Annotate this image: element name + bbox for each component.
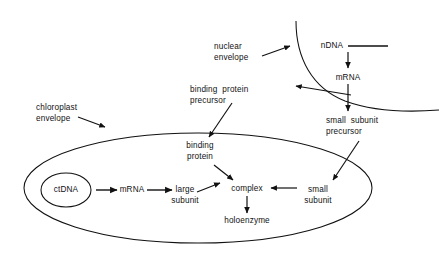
nuclear-envelope-label: nuclearenvelope (214, 42, 248, 63)
pathway-diagram: nuclearenvelope chloroplastenvelope nDNA… (0, 0, 439, 259)
arrow-binding-protein-precursor-to-binding-protein (209, 103, 232, 137)
node-large-subunit: largesubunit (171, 185, 198, 206)
arrow-chloroplast-envelope-pointer (78, 117, 105, 127)
node-small-subunit: smallsubunit (304, 185, 331, 206)
nuclear-envelope-shape (296, 21, 439, 111)
node-holoenzyme: holoenzyme (224, 216, 270, 227)
node-complex: complex (231, 184, 263, 195)
node-chloroplast-mrna: mRNA (120, 185, 145, 196)
node-nuclear-mrna: mRNA (336, 73, 361, 84)
chloroplast-envelope-label: chloroplastenvelope (36, 103, 77, 124)
arrow-binding-protein-to-complex (214, 165, 233, 180)
node-binding-protein-precursor: binding proteinprecursor (190, 85, 248, 106)
arrow-mrna-to-binding-protein-precursor (296, 86, 351, 95)
arrow-large-subunit-to-complex (197, 183, 220, 192)
node-binding-protein: bindingprotein (186, 141, 213, 162)
arrow-small-subunit-precursor-to-small-subunit (333, 141, 359, 180)
node-ndna: nDNA (321, 41, 343, 52)
node-small-subunit-precursor: small subunitprecursor (326, 116, 378, 137)
arrow-nuclear-envelope-pointer (262, 46, 290, 56)
node-ctdna: ctDNA (54, 185, 78, 196)
